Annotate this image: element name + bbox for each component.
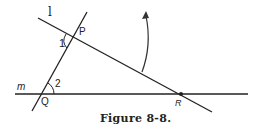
- label-point-q: Q: [41, 97, 49, 107]
- label-point-r: R: [175, 99, 182, 108]
- label-point-p: P: [79, 27, 86, 37]
- rotation-arrow: [142, 16, 148, 72]
- angle-2-arc: [48, 83, 54, 94]
- figure-caption: Figure 8-8.: [100, 112, 171, 125]
- point-r-dot: [179, 92, 183, 96]
- label-line-m: m: [17, 82, 25, 92]
- arrowhead-icon: [142, 11, 149, 19]
- label-angle-2: 2: [55, 79, 61, 89]
- label-line-l: l: [48, 6, 52, 18]
- label-angle-1: 1: [59, 38, 65, 49]
- line-l: [38, 18, 212, 112]
